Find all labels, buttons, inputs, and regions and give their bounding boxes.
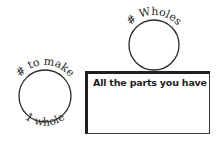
wholes-top-label: # Wholes [124,5,185,28]
whole-size-top-label: # to make [13,55,77,80]
whole-size-bottom-label: 1 whole [23,110,67,129]
wholes-circle [129,20,179,70]
whole-size-circle [19,70,71,122]
all-parts-box: All the parts you have [85,71,210,134]
all-parts-label: All the parts you have [93,77,207,88]
